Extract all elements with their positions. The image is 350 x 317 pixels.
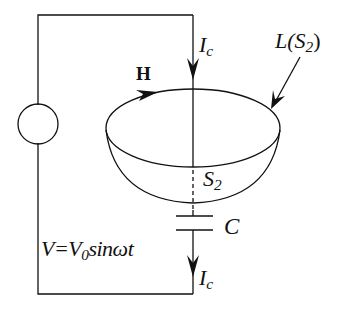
label-source: V=V0sinωt <box>41 238 133 262</box>
label-current-top: Ic <box>199 34 213 58</box>
arrow-pointer-icon <box>271 90 285 109</box>
label-surface: S2 <box>203 168 222 192</box>
label-capacitor: C <box>224 215 239 238</box>
label-loop: L(S2) <box>275 30 321 54</box>
ac-source-circle <box>18 104 58 144</box>
arrow-field-h-icon <box>136 90 158 101</box>
diagram: Ic H L(S2) S2 C V=V0sinωt Ic <box>0 0 350 317</box>
label-current-bottom: Ic <box>199 267 213 291</box>
label-field-h: H <box>136 64 151 83</box>
